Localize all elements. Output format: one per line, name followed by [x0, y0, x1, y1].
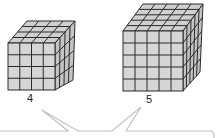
- cube-4-label: 4: [27, 92, 33, 104]
- cube-4: [8, 21, 75, 90]
- cube-5-front-face: [123, 31, 183, 91]
- cubes-diagram: [0, 0, 216, 138]
- callout-bubble: [0, 107, 214, 138]
- cube-5: [123, 4, 203, 91]
- cube-5-label: 5: [146, 93, 152, 105]
